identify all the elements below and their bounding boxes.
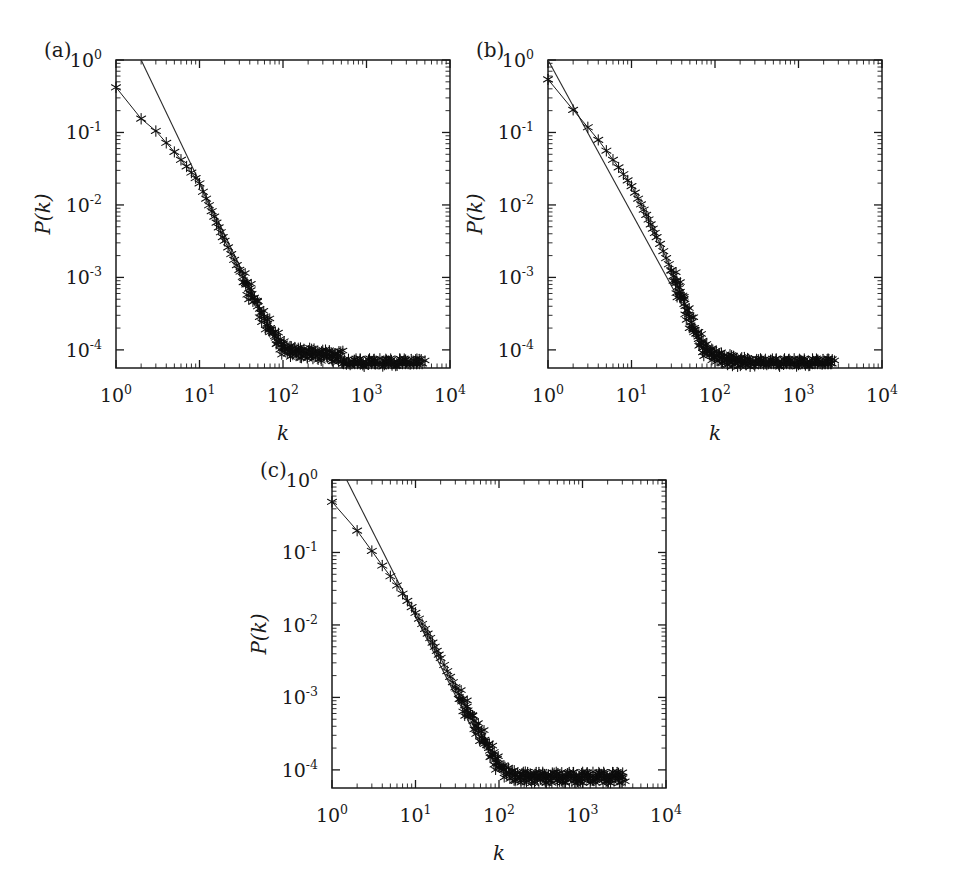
svg-text:102: 102 — [483, 802, 515, 826]
panel-b: (b) 10010110210310410010-110-210-310-4kP… — [476, 38, 896, 428]
panel-b-tag: (b) — [476, 38, 504, 62]
y-tick-label: 100 — [70, 47, 102, 71]
y-tick-label: 10-1 — [282, 539, 318, 563]
y-axis-label: P(k) — [247, 613, 271, 655]
panel-c-plot: 10010110210310410010-110-210-310-4kP(k) — [260, 458, 680, 848]
axes-frame — [332, 480, 666, 788]
svg-text:104: 104 — [434, 382, 466, 406]
y-tick-label: 10-2 — [282, 612, 318, 636]
y-tick-label: 100 — [502, 47, 534, 71]
figure-degree-distributions: (a) 10010110210310410010-110-210-310-4kP… — [0, 0, 953, 870]
y-tick-label: 10-2 — [498, 192, 534, 216]
y-axis-label: P(k) — [463, 193, 487, 235]
power-law-fit-line — [548, 60, 682, 305]
panel-a-tag: (a) — [44, 38, 72, 62]
x-axis-label: k — [493, 841, 505, 865]
x-axis-label: k — [709, 421, 721, 445]
power-law-fit-line — [347, 480, 481, 745]
svg-text:101: 101 — [183, 382, 215, 406]
y-tick-label: 100 — [286, 467, 318, 491]
svg-text:100: 100 — [532, 382, 564, 406]
panel-b-plot: 10010110210310410010-110-210-310-4kP(k) — [476, 38, 896, 428]
svg-text:103: 103 — [350, 382, 382, 406]
svg-text:100: 100 — [316, 802, 348, 826]
axes-frame — [116, 60, 450, 368]
svg-text:102: 102 — [699, 382, 731, 406]
panel-c: (c) 10010110210310410010-110-210-310-4kP… — [260, 458, 680, 848]
y-tick-label: 10-3 — [282, 684, 318, 708]
svg-text:103: 103 — [782, 382, 814, 406]
svg-text:101: 101 — [399, 802, 431, 826]
panel-c-tag: (c) — [260, 458, 287, 482]
svg-text:100: 100 — [100, 382, 132, 406]
svg-text:104: 104 — [866, 382, 898, 406]
panel-a-plot: 10010110210310410010-110-210-310-4kP(k) — [44, 38, 464, 428]
y-tick-label: 10-1 — [498, 119, 534, 143]
y-tick-label: 10-2 — [66, 192, 102, 216]
y-tick-label: 10-4 — [66, 337, 102, 361]
y-tick-label: 10-4 — [498, 337, 534, 361]
axes-frame — [548, 60, 882, 368]
panel-a: (a) 10010110210310410010-110-210-310-4kP… — [44, 38, 464, 428]
svg-text:102: 102 — [267, 382, 299, 406]
x-axis-label: k — [277, 421, 289, 445]
y-tick-label: 10-4 — [282, 757, 318, 781]
y-axis-label: P(k) — [31, 193, 55, 235]
y-tick-label: 10-1 — [66, 119, 102, 143]
svg-text:104: 104 — [650, 802, 682, 826]
svg-text:101: 101 — [615, 382, 647, 406]
y-tick-label: 10-3 — [498, 264, 534, 288]
series-line — [332, 502, 622, 777]
series-line — [548, 79, 832, 363]
y-tick-label: 10-3 — [66, 264, 102, 288]
svg-text:103: 103 — [566, 802, 598, 826]
series-line — [116, 87, 422, 363]
